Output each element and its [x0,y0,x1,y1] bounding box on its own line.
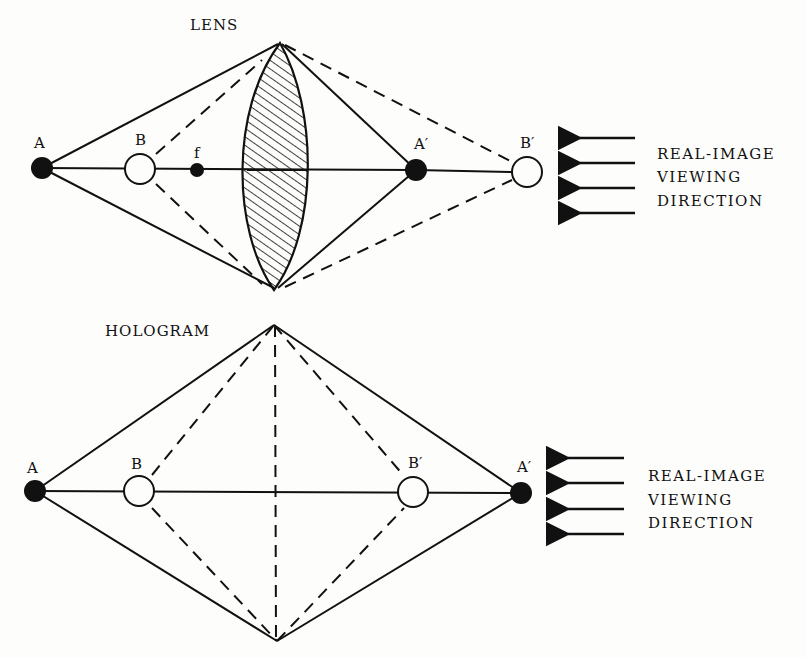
holo-point-b [124,476,154,506]
point-b-prime [512,157,542,187]
point-a-prime [405,159,427,181]
lens-direction-line-2: VIEWING [656,168,742,186]
holo-direction-line-2: VIEWING [647,491,733,509]
lens-dashed-rays [156,45,512,287]
holo-point-b-prime [398,477,428,507]
lens-panel: LENS A B f A′ B′ [31,16,775,290]
hologram-panel: HOLOGRAM A B B′ A′ [24,322,766,641]
label-b: B [135,131,146,149]
label-b-prime: B′ [520,134,535,152]
label-a-prime: A′ [413,135,429,153]
lens-shape [242,43,307,290]
holo-label-a: A [26,459,38,477]
lens-title: LENS [190,16,238,34]
holo-direction-line-3: DIRECTION [648,514,755,532]
label-f: f [194,144,201,162]
lens-direction-line-1: REAL-IMAGE [657,145,775,163]
hologram-title: HOLOGRAM [105,322,210,340]
holo-label-b-prime: B′ [408,454,423,472]
holo-direction-line-1: REAL-IMAGE [648,467,766,485]
label-a: A [33,134,45,152]
holo-label-a-prime: A′ [516,458,532,476]
holo-label-b: B [131,455,142,473]
hologram-dashed-rays [152,325,404,641]
hologram-viewing-arrows [568,458,624,534]
lens-viewing-arrows [580,138,635,213]
holo-point-a [24,480,46,502]
focal-point-f [190,163,204,177]
hologram-solid-rays [35,325,521,641]
point-b [125,154,155,184]
lens-direction-line-3: DIRECTION [657,192,764,210]
holo-point-a-prime [510,482,532,504]
diagram-canvas: LENS A B f A′ B′ [0,0,807,658]
point-a [31,157,53,179]
